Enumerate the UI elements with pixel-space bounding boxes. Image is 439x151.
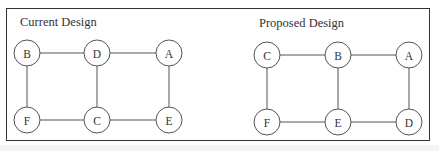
node-label: D xyxy=(405,117,413,129)
proposed-design-graph: CBAFED xyxy=(254,42,422,135)
node-label: A xyxy=(405,50,414,62)
current-node-d: D xyxy=(84,40,110,66)
proposed-node-e: E xyxy=(325,109,351,135)
diagram-canvas: Current Design Proposed Design BDAFCE CB… xyxy=(0,0,439,151)
proposed-node-d: D xyxy=(396,109,422,135)
node-label: D xyxy=(93,48,101,60)
node-label: C xyxy=(93,115,101,127)
proposed-node-c: C xyxy=(254,42,280,68)
node-label: E xyxy=(165,115,172,127)
node-label: A xyxy=(165,48,174,60)
proposed-node-f: F xyxy=(254,109,280,135)
graph-svg: BDAFCE CBAFED xyxy=(0,0,439,151)
node-label: C xyxy=(263,50,271,62)
proposed-node-a: A xyxy=(396,42,422,68)
current-design-graph: BDAFCE xyxy=(14,40,182,133)
bottom-strip xyxy=(0,145,439,151)
node-label: F xyxy=(24,115,30,127)
current-node-e: E xyxy=(156,107,182,133)
node-label: F xyxy=(264,117,270,129)
current-node-f: F xyxy=(14,107,40,133)
current-node-a: A xyxy=(156,40,182,66)
node-label: B xyxy=(334,50,342,62)
proposed-node-b: B xyxy=(325,42,351,68)
node-label: E xyxy=(334,117,341,129)
current-node-b: B xyxy=(14,40,40,66)
node-label: B xyxy=(23,48,31,60)
current-node-c: C xyxy=(84,107,110,133)
